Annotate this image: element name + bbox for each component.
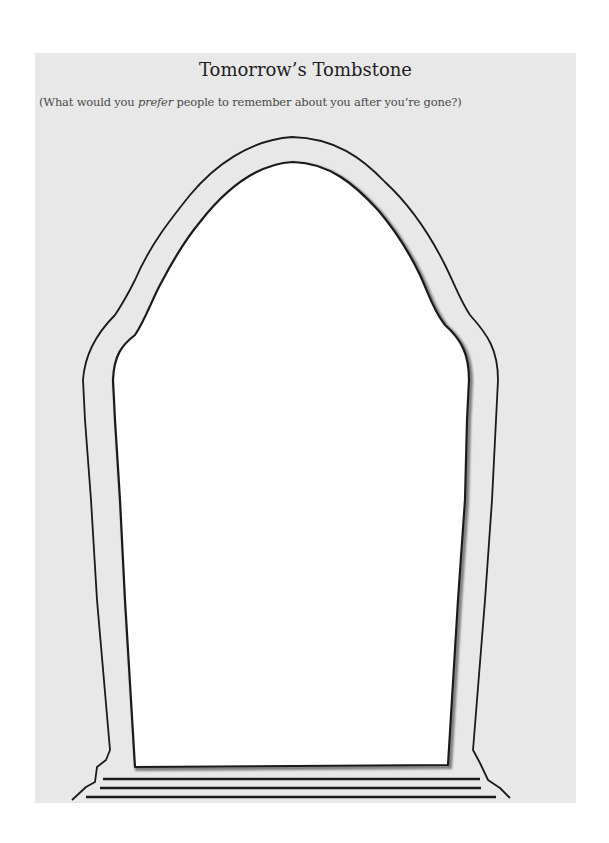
tombstone-writing-area[interactable] bbox=[113, 162, 469, 767]
tombstone-illustration bbox=[0, 0, 609, 843]
